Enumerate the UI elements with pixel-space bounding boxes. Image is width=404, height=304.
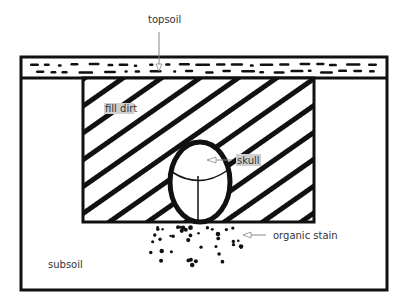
topsoil-particle — [290, 70, 303, 73]
topsoil-particle — [216, 63, 226, 66]
stain-dot — [216, 232, 221, 237]
stain-dot — [221, 260, 225, 264]
stain-dot — [225, 228, 228, 231]
stain-dot — [190, 263, 195, 268]
topsoil-particle — [300, 63, 311, 66]
stain-dot — [199, 246, 202, 249]
stain-dot — [211, 228, 214, 231]
svg-text:organic stain: organic stain — [273, 230, 338, 241]
stain-dot — [156, 227, 160, 231]
topsoil-particle — [329, 64, 337, 66]
stain-dot — [170, 250, 173, 253]
topsoil-particle — [274, 71, 285, 74]
stain-dot — [159, 249, 163, 253]
topsoil-particle — [104, 71, 116, 74]
stain-dot — [197, 232, 199, 234]
topsoil-particle — [119, 63, 129, 66]
stain-dot — [149, 251, 152, 254]
stain-dot — [231, 226, 234, 229]
topsoil-particle — [79, 71, 94, 74]
stain-dot — [194, 259, 198, 263]
topsoil-particle — [338, 70, 347, 73]
stain-dot — [186, 259, 190, 263]
svg-text:topsoil: topsoil — [148, 14, 181, 25]
stain-dot — [184, 228, 188, 232]
stain-dot — [169, 235, 171, 237]
topsoil-particle — [108, 64, 114, 67]
topsoil-particle — [259, 71, 264, 74]
topsoil-particle — [124, 70, 127, 73]
stain-dot — [151, 240, 154, 243]
stain-dot — [237, 240, 239, 242]
topsoil-particle — [179, 63, 190, 65]
stain-dot — [158, 238, 161, 241]
stain-dot — [206, 226, 209, 229]
topsoil-particle — [279, 63, 289, 65]
topsoil-particle — [135, 70, 141, 73]
subsoil-label: subsoil — [48, 259, 83, 270]
stain-dot — [153, 233, 157, 237]
topsoil-particle — [241, 70, 255, 73]
stain-dot — [232, 240, 235, 243]
topsoil-particle — [173, 70, 176, 73]
topsoil-particle — [58, 64, 62, 67]
burial-diagram: topsoil fill dirt skull organic stain su… — [0, 0, 404, 304]
skull — [170, 142, 230, 222]
topsoil-particle — [51, 71, 57, 74]
topsoil-particle — [320, 71, 333, 74]
topsoil-particle — [44, 63, 50, 66]
topsoil-particle — [222, 70, 231, 73]
topsoil-particle — [346, 63, 360, 66]
topsoil-particle — [70, 63, 78, 66]
topsoil-particle — [231, 63, 243, 66]
stain-dot — [161, 228, 163, 230]
topsoil-particle — [185, 70, 193, 73]
svg-text:fill dirt: fill dirt — [105, 103, 137, 114]
topsoil-particle — [316, 63, 324, 66]
stain-dot — [159, 259, 163, 263]
stain-dot — [188, 225, 193, 230]
topsoil-particle — [134, 64, 138, 67]
stain-dot — [180, 229, 184, 233]
stain-dot — [217, 252, 221, 256]
topsoil-particle — [36, 70, 44, 73]
topsoil-particle — [368, 63, 377, 65]
topsoil-particle — [61, 71, 67, 74]
fill-dirt-label: fill dirt — [104, 103, 137, 114]
stain-dot — [232, 243, 235, 246]
topsoil-particle — [369, 70, 375, 73]
stain-dot — [216, 237, 220, 241]
topsoil-particle — [353, 70, 362, 73]
stain-dot — [189, 234, 193, 238]
topsoil-particle — [149, 63, 153, 66]
svg-text:skull: skull — [237, 155, 260, 166]
stain-dot — [171, 234, 175, 238]
stain-dot — [214, 245, 217, 248]
topsoil-particle — [89, 63, 100, 66]
topsoil-particle — [165, 63, 170, 66]
stain-dot — [240, 246, 243, 249]
topsoil-particle — [308, 70, 312, 73]
stain-dot — [179, 226, 182, 229]
stain-dot — [186, 238, 190, 242]
topsoil-particle — [30, 64, 39, 67]
topsoil-particle — [250, 64, 254, 67]
topsoil-particle — [205, 71, 213, 74]
topsoil-particle — [260, 63, 274, 65]
topsoil-particle — [195, 63, 210, 66]
topsoil-particle — [150, 70, 162, 73]
